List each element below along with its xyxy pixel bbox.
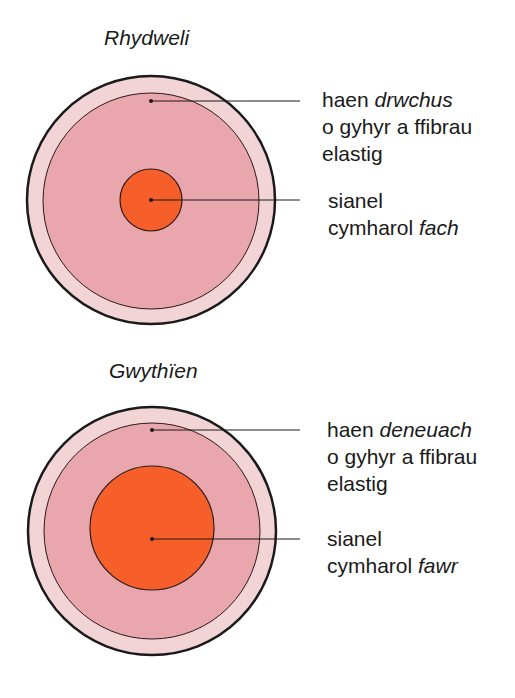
vein-lumen: [90, 466, 214, 590]
vein-wall-pointer-dot: [150, 428, 154, 432]
artery-wall-label: haen drwchus o gyhyr a ffibrau elastig: [322, 86, 472, 167]
vein-cross-section: [28, 407, 300, 655]
artery-lumen-label-line2: cymharol fach: [328, 214, 459, 241]
vein-lumen-label-line1: sianel: [327, 525, 458, 552]
label-text: haen: [322, 88, 375, 111]
vein-wall-label: haen deneuach o gyhyr a ffibrau elastig: [327, 416, 477, 497]
label-emphasis: drwchus: [375, 88, 453, 111]
vein-title: Gwythïen: [109, 359, 198, 383]
vein-wall-label-line1: haen deneuach: [327, 416, 477, 443]
vein-wall-label-line3: elastig: [327, 470, 477, 497]
artery-wall-label-line2: o gyhyr a ffibrau: [322, 113, 472, 140]
artery-wall-label-line3: elastig: [322, 140, 472, 167]
artery-cross-section: [27, 76, 300, 324]
artery-lumen-label-line1: sianel: [328, 187, 459, 214]
vein-wall-label-line2: o gyhyr a ffibrau: [327, 443, 477, 470]
label-text: cymharol: [328, 216, 419, 239]
vein-lumen-label-line2: cymharol fawr: [327, 552, 458, 579]
label-emphasis: fach: [419, 216, 459, 239]
label-emphasis: fawr: [418, 554, 458, 577]
artery-wall-label-line1: haen drwchus: [322, 86, 472, 113]
vein-lumen-label: sianel cymharol fawr: [327, 525, 458, 579]
label-emphasis: deneuach: [380, 418, 472, 441]
label-text: haen: [327, 418, 380, 441]
artery-title: Rhydweli: [104, 26, 189, 50]
artery-wall-pointer-dot: [149, 99, 153, 103]
artery-lumen-pointer-dot: [149, 198, 153, 202]
vein-lumen-pointer-dot: [150, 537, 154, 541]
artery-lumen-label: sianel cymharol fach: [328, 187, 459, 241]
label-text: cymharol: [327, 554, 418, 577]
